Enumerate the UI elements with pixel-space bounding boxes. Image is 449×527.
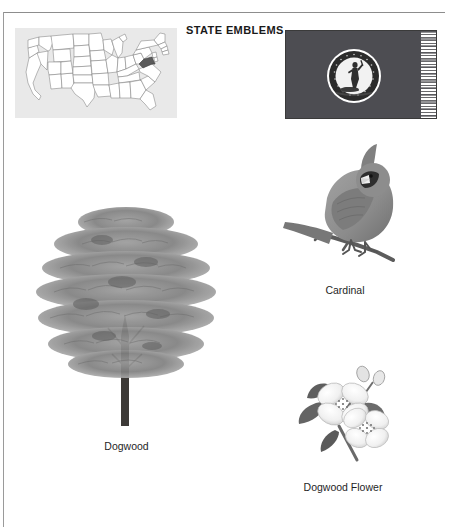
dogwood-flower-caption: Dogwood Flower bbox=[263, 481, 423, 493]
cardinal-bird-image bbox=[275, 140, 415, 280]
left-border-rule bbox=[3, 12, 4, 527]
virginia-state-flag bbox=[285, 30, 437, 119]
dogwood-flower-image bbox=[283, 360, 403, 465]
united-states-map bbox=[15, 28, 177, 118]
flag-fringe-edge bbox=[421, 31, 436, 118]
virginia-state-seal bbox=[326, 48, 382, 104]
dogwood-tree-caption: Dogwood bbox=[34, 440, 219, 452]
page-title: STATE EMBLEMS bbox=[186, 24, 284, 36]
state-emblems-page: STATE EMBLEMS bbox=[0, 0, 449, 527]
cardinal-caption: Cardinal bbox=[275, 284, 415, 296]
dogwood-tree-image bbox=[34, 196, 219, 431]
top-divider-rule bbox=[4, 12, 445, 13]
